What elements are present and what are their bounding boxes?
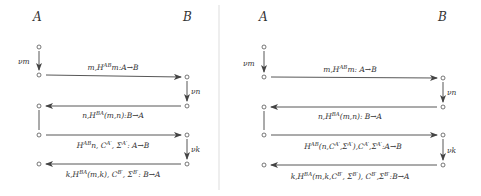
message-label-1: m,HABm:A→B: [88, 62, 139, 72]
message-label-2: n,HBA(m,n):B→A: [82, 110, 144, 120]
node-b-3: [441, 133, 445, 137]
step-label-vk: νk: [447, 146, 457, 155]
party-b-label: B: [437, 10, 447, 24]
message-label-2: n,HBA(m,n): B→A: [318, 111, 383, 121]
node-b-4: [441, 163, 445, 167]
party-a-label: A: [32, 10, 42, 24]
node-b-1: [441, 76, 445, 80]
message-label-3: HABn, CA′, ΣA′: A→B: [76, 140, 150, 150]
node-a-1: [262, 75, 266, 79]
node-a-4: [262, 163, 266, 167]
protocol-diagram: A B νm νn νk m,HABm:A→B n,HBA(m,n):B→A H…: [0, 0, 481, 196]
step-label-vk: νk: [191, 145, 201, 154]
step-label-vn: νn: [191, 87, 201, 96]
step-label-vm: νm: [18, 57, 30, 66]
node-a-0: [262, 45, 266, 49]
node-b-2: [441, 105, 445, 109]
node-a-0: [37, 45, 41, 49]
node-a-2: [37, 104, 41, 108]
node-a-4: [37, 162, 41, 166]
node-b-3: [185, 133, 189, 137]
message-label-4: k,HBA(m,k,CB′, ΣB′), CB′,ΣB′:B→A: [291, 171, 410, 181]
message-arrow-1: [271, 77, 437, 78]
step-label-vm: νm: [243, 59, 255, 68]
message-label-1: m,HABm: A→B: [323, 64, 377, 74]
party-a-label: A: [258, 10, 268, 24]
message-arrow-1: [46, 75, 181, 77]
right-panel: A B νm νn νk m,HABm: A→B n,HBA(m,n): B→A…: [243, 10, 457, 181]
message-label-3: HAB(n,CA′,ΣA′),CA′,ΣA′:A→B: [303, 141, 402, 151]
node-a-3: [37, 133, 41, 137]
node-b-2: [185, 104, 189, 108]
message-label-4: k,HBA(m,k), CB′, ΣB′: B→A: [66, 169, 161, 179]
node-b-4: [185, 162, 189, 166]
left-panel: A B νm νn νk m,HABm:A→B n,HBA(m,n):B→A H…: [18, 10, 201, 179]
node-b-1: [185, 75, 189, 79]
node-a-3: [262, 133, 266, 137]
party-b-label: B: [182, 10, 192, 24]
step-label-vn: νn: [447, 88, 457, 97]
node-a-1: [37, 73, 41, 77]
node-a-2: [262, 105, 266, 109]
